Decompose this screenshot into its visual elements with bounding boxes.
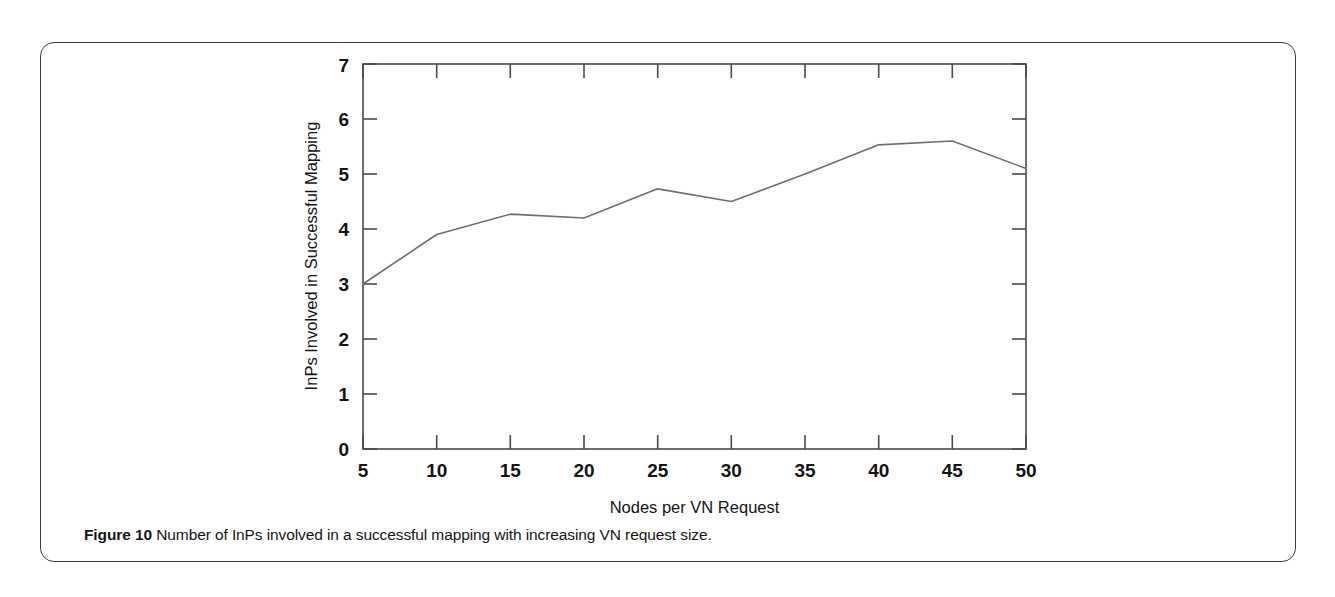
y-tick-label: 0 [338,439,349,460]
y-tick-label: 2 [338,329,349,350]
x-tick-label: 45 [942,460,964,481]
x-axis-title: Nodes per VN Request [610,498,780,516]
figure-caption-text: Number of InPs involved in a successful … [152,526,712,543]
y-axis-title: InPs Involved in Successful Mapping [302,122,320,391]
y-tick-labels: 0 1 2 3 4 5 6 7 [338,55,349,460]
x-axis-ticks [363,64,1026,449]
plot-border [363,64,1026,449]
x-tick-label: 25 [647,460,669,481]
x-tick-labels: 5 10 15 20 25 30 35 40 45 50 [358,460,1037,481]
y-tick-label: 7 [338,55,349,76]
plot-frame [363,64,1026,449]
x-tick-label: 50 [1015,460,1036,481]
y-axis-ticks [363,64,1026,449]
y-tick-label: 5 [338,164,349,185]
figure-caption: Figure 10 Number of InPs involved in a s… [84,526,712,544]
x-tick-label: 40 [868,460,889,481]
y-tick-label: 1 [338,384,349,405]
x-tick-label: 30 [721,460,742,481]
figure-number: Figure 10 [84,526,152,543]
y-tick-label: 6 [338,109,349,130]
x-tick-label: 15 [500,460,522,481]
y-tick-label: 3 [338,274,349,295]
data-series-line [363,141,1026,284]
x-tick-label: 20 [573,460,594,481]
y-tick-label: 4 [338,219,349,240]
x-tick-label: 10 [426,460,447,481]
x-tick-label: 35 [794,460,816,481]
chart-plot-area: 0 1 2 3 4 5 6 7 5 10 15 20 25 30 35 40 4… [41,43,1297,563]
figure-frame: 0 1 2 3 4 5 6 7 5 10 15 20 25 30 35 40 4… [40,42,1296,562]
x-tick-label: 5 [358,460,369,481]
line-chart: 0 1 2 3 4 5 6 7 5 10 15 20 25 30 35 40 4… [41,43,1297,563]
